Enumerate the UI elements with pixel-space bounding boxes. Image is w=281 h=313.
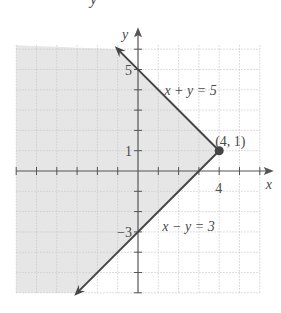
header-fragment: y (88, 0, 98, 8)
graph: 451−3 y x y x + y = 5 x − y = 3 (4, 1) (0, 0, 281, 313)
annotation-point: (4, 1) (215, 134, 246, 150)
y-tick-label: 5 (125, 63, 132, 78)
annotation-line-1: x + y = 5 (163, 83, 216, 98)
x-tick-label: 4 (215, 181, 222, 196)
y-axis-label: y (120, 27, 129, 42)
y-tick-label: −3 (117, 225, 132, 240)
annotation-line-2: x − y = 3 (161, 219, 214, 234)
x-axis-label: x (265, 177, 273, 192)
y-tick-label: 1 (125, 144, 132, 159)
